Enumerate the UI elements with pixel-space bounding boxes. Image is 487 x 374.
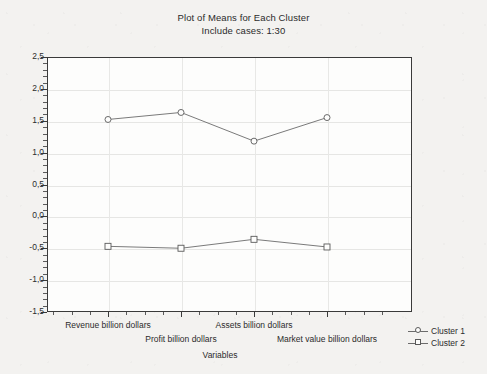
x-tick-minor (345, 312, 346, 315)
y-tick-minor (43, 140, 47, 141)
y-tick-label: 1,0 (4, 147, 44, 157)
y-tick-minor (43, 108, 47, 109)
x-tick-minor (364, 312, 365, 315)
y-tick-label: 2,5 (4, 51, 44, 61)
y-tick-minor (43, 267, 47, 268)
legend-label: Cluster 1 (428, 326, 465, 336)
y-tick-minor (43, 127, 47, 128)
chart-title: Plot of Means for Each Cluster (0, 11, 487, 24)
x-tick (108, 312, 109, 317)
y-tick-minor (43, 197, 47, 198)
x-axis-title: Variables (0, 350, 440, 360)
x-tick-minor (199, 312, 200, 315)
y-tick-minor (43, 76, 47, 77)
gridline-vertical (109, 58, 110, 311)
x-tick (181, 312, 182, 317)
legend-item[interactable]: Cluster 2 (408, 337, 487, 349)
y-tick-minor (43, 95, 47, 96)
x-category-label: Revenue billion dollars (65, 320, 151, 330)
gridline-vertical (182, 58, 183, 311)
chart-subtitle: Include cases: 1:30 (0, 24, 487, 37)
gridline-horizontal (48, 281, 411, 282)
legend-label: Cluster 2 (428, 338, 465, 348)
y-tick-minor (43, 159, 47, 160)
x-tick-minor (53, 312, 54, 315)
y-tick-minor (43, 223, 47, 224)
y-tick-minor (43, 236, 47, 237)
gridline-vertical (255, 58, 256, 311)
y-tick-minor (43, 102, 47, 103)
x-tick-minor (382, 312, 383, 315)
y-tick-label: -1,0 (4, 274, 44, 284)
legend-circle-icon (408, 325, 428, 337)
gridline-horizontal (48, 249, 411, 250)
x-tick-minor (291, 312, 292, 315)
y-tick-minor (43, 191, 47, 192)
gridline-horizontal (48, 154, 411, 155)
gridline-horizontal (48, 90, 411, 91)
chart-legend: Cluster 1Cluster 2 (408, 325, 487, 349)
y-tick-minor (43, 70, 47, 71)
x-tick-minor (90, 312, 91, 315)
legend-square-icon (408, 337, 428, 349)
x-tick-minor (272, 312, 273, 315)
chart-title-block: Plot of Means for Each Cluster Include c… (0, 11, 487, 37)
x-tick-minor (163, 312, 164, 315)
y-tick-label: 2,0 (4, 83, 44, 93)
x-tick (254, 312, 255, 317)
y-tick-minor (43, 299, 47, 300)
y-tick-label: 0,5 (4, 179, 44, 189)
x-tick-minor (145, 312, 146, 315)
x-tick-minor (236, 312, 237, 315)
x-tick-minor (309, 312, 310, 315)
x-tick-minor (126, 312, 127, 315)
y-tick-minor (43, 172, 47, 173)
y-tick-minor (43, 261, 47, 262)
gridline-vertical (328, 58, 329, 311)
chart-figure: Plot of Means for Each Cluster Include c… (0, 0, 487, 374)
x-category-label: Market value billion dollars (277, 334, 377, 344)
y-tick-label: -0,5 (4, 242, 44, 252)
y-tick-label: -1,5 (4, 306, 44, 316)
y-tick-minor (43, 293, 47, 294)
y-tick-minor (43, 229, 47, 230)
x-category-label: Profit billion dollars (145, 334, 216, 344)
y-tick-minor (43, 165, 47, 166)
gridline-horizontal (48, 186, 411, 187)
plot-area (47, 57, 412, 312)
gridline-horizontal (48, 217, 411, 218)
y-tick-minor (43, 255, 47, 256)
y-tick-minor (43, 63, 47, 64)
x-tick (327, 312, 328, 317)
y-tick-minor (43, 287, 47, 288)
x-tick-minor (72, 312, 73, 315)
y-tick-label: 1,5 (4, 115, 44, 125)
x-category-label: Assets billion dollars (215, 320, 292, 330)
gridline-horizontal (48, 122, 411, 123)
y-tick-minor (43, 134, 47, 135)
x-tick-minor (218, 312, 219, 315)
legend-item[interactable]: Cluster 1 (408, 325, 487, 337)
y-tick-minor (43, 204, 47, 205)
y-tick-label: 0,0 (4, 210, 44, 220)
